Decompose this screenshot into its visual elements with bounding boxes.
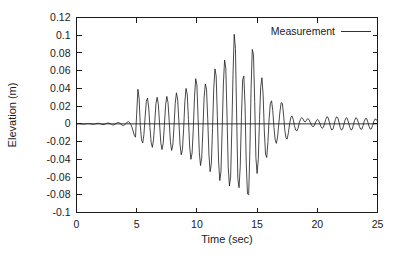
x-axis-title: Time (sec) [201, 233, 253, 245]
y-axis-title: Elevation (m) [6, 83, 18, 148]
y-tick-label: 0.06 [50, 64, 71, 76]
x-tick-label: 15 [251, 218, 263, 230]
x-tick-label: 5 [134, 218, 140, 230]
y-tick-label: 0.08 [50, 47, 71, 59]
x-tick-label: 25 [372, 218, 384, 230]
chart-figure: 0.120.10.080.060.040.020-0.02-0.04-0.06-… [0, 0, 397, 259]
y-tick-label: 0.12 [50, 11, 71, 23]
y-tick-label: 0 [65, 117, 71, 129]
y-tick-label: -0.06 [47, 171, 71, 183]
y-tick-label: -0.1 [52, 206, 70, 218]
x-tick-label: 0 [74, 218, 80, 230]
wave-elevation-time-series-chart: 0.120.10.080.060.040.020-0.02-0.04-0.06-… [0, 0, 397, 259]
x-tick-label: 20 [311, 218, 323, 230]
y-tick-label: -0.02 [47, 135, 71, 147]
y-tick-label: -0.04 [47, 153, 71, 165]
y-tick-label: 0.02 [50, 100, 71, 112]
legend-label-measurement: Measurement [271, 25, 335, 37]
y-tick-label: 0.04 [50, 82, 71, 94]
x-tick-label: 10 [191, 218, 203, 230]
y-tick-label: 0.1 [56, 29, 71, 41]
y-tick-label: -0.08 [47, 188, 71, 200]
